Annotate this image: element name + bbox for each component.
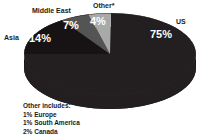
pie-slices <box>24 13 196 95</box>
pie-label-other: Other* <box>93 2 114 9</box>
pie-value-us: 75% <box>150 29 172 40</box>
footnote-item-south-america: 1% South America <box>23 119 80 128</box>
pie-label-asia: Asia <box>4 34 19 41</box>
footnote-item-europe: 1% Europe <box>23 111 80 120</box>
pie-value-asia: 14% <box>29 33 51 44</box>
pie-label-middle-east: Middle East <box>32 7 71 14</box>
footnote-title: Other includes: <box>23 102 80 111</box>
footnote-block: Other includes: 1% Europe 1% South Ameri… <box>23 102 80 136</box>
pie-label-us: US <box>176 18 186 25</box>
pie-chart: US Other* Middle East Asia 75% 4% 7% 14%… <box>0 0 214 138</box>
pie-value-other: 4% <box>90 16 106 27</box>
pie-value-middle-east: 7% <box>63 20 79 31</box>
footnote-item-canada: 2% Canada <box>23 128 80 137</box>
